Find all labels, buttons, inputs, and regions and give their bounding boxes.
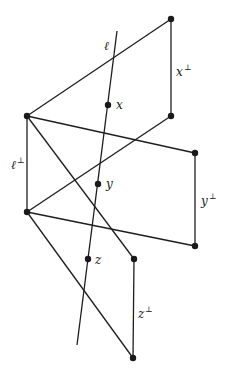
edge-lperp-top-to-xperp-top	[27, 19, 171, 116]
lattice-diagram: ℓ x y z x ⊥ ℓ ⊥ y ⊥ z ⊥	[0, 0, 227, 377]
edge-lperp-bot-to-xperp-bot	[27, 116, 171, 212]
label-x-perp-sup: ⊥	[184, 63, 192, 72]
label-x-perp-base: x	[176, 65, 183, 79]
vertex-yperp-top	[192, 150, 198, 156]
label-l: ℓ	[104, 39, 109, 53]
label-y: y	[105, 177, 113, 191]
label-z-perp-sup: ⊥	[145, 305, 153, 314]
vertex-z	[85, 256, 91, 262]
vertex-y	[95, 181, 101, 187]
edge-lperp-bot-to-zperp-bot	[27, 212, 133, 358]
label-l-perp-sup: ⊥	[17, 156, 25, 165]
edge-lperp-top-to-zperp-top	[27, 116, 134, 259]
vertex-xperp-bot	[168, 113, 174, 119]
label-z-perp-base: z	[137, 307, 145, 321]
vertex-x	[105, 102, 111, 108]
edge-zperp	[133, 259, 134, 358]
vertex-xperp-top	[168, 16, 174, 22]
label-x: x	[116, 98, 123, 112]
vertex-yperp-bot	[192, 243, 198, 249]
vertex-lperp-bot	[24, 209, 30, 215]
vertex-zperp-bot	[130, 355, 136, 361]
edge-lperp-top-to-yperp-top	[27, 116, 195, 153]
vertex-lperp-top	[24, 113, 30, 119]
label-y-perp-sup: ⊥	[209, 192, 217, 201]
label-l-perp-base: ℓ	[11, 158, 16, 172]
label-y-perp-base: y	[200, 194, 208, 208]
label-z: z	[94, 253, 102, 267]
vertex-zperp-top	[131, 256, 137, 262]
